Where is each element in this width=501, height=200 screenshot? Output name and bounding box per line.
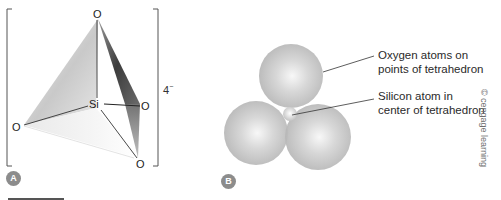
oxygen-leader-line — [323, 56, 374, 72]
oxygen-bottom-label: O — [136, 158, 145, 170]
oxygen-top-label: O — [93, 8, 102, 20]
panel-badge-a: A — [6, 171, 21, 186]
oxygen-callout: Oxygen atoms on points of tetrahedron — [378, 49, 484, 76]
panel-badge-b: B — [221, 174, 236, 189]
oxygen-sphere-bottom-left — [224, 101, 288, 165]
face-left — [24, 19, 98, 125]
left-bracket — [7, 9, 12, 166]
oxygen-callout-line-1: Oxygen atoms on — [378, 49, 484, 63]
panel-a-tetrahedron: O O O O Si — [7, 8, 158, 170]
face-dark — [98, 19, 140, 104]
silicon-sphere-center — [283, 107, 297, 121]
oxygen-sphere-top — [259, 44, 323, 108]
right-bracket — [153, 9, 158, 166]
bottom-divider — [8, 198, 64, 200]
silicon-callout: Silicon atom in center of tetrahedron — [378, 90, 485, 117]
ion-charge: 4− — [163, 83, 173, 96]
panel-b-spheres — [224, 44, 374, 170]
silicon-center-label: Si — [89, 98, 99, 110]
charge-sign: − — [169, 83, 173, 90]
copyright-notice: © cengage learning — [479, 89, 489, 167]
oxygen-left-label: O — [12, 121, 21, 133]
oxygen-right-label: O — [141, 100, 150, 112]
silicon-callout-line-2: center of tetrahedron — [378, 104, 485, 118]
oxygen-callout-line-2: points of tetrahedron — [378, 63, 484, 77]
silicon-callout-line-1: Silicon atom in — [378, 90, 485, 104]
